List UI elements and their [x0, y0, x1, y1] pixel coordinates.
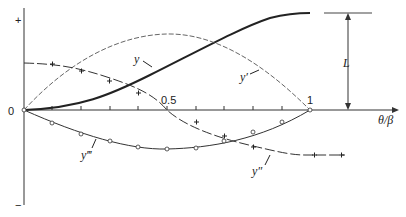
chart-svg: + − 0 0.5 1 θ/β L y y′ y‴ y″ [0, 0, 406, 217]
label-y-triple-prime: y‴ [80, 148, 92, 162]
origin-label: 0 [8, 105, 14, 117]
label-y: y [133, 52, 140, 66]
y-axis-minus: − [15, 199, 21, 211]
tick-label-half: 0.5 [161, 94, 176, 106]
leader-y2 [265, 155, 270, 165]
leader-y1 [250, 70, 259, 74]
y-axis-plus: + [15, 14, 21, 26]
tick-label-one: 1 [307, 94, 313, 106]
series-y-double-prime [24, 63, 345, 155]
arrow-up-icon [345, 13, 351, 20]
cam-motion-chart: + − 0 0.5 1 θ/β L y y′ y‴ y″ [0, 0, 406, 217]
circle-markers [22, 108, 312, 151]
label-y-prime: y′ [239, 70, 248, 84]
x-ticks [52, 106, 282, 110]
label-y-double-prime: y″ [251, 164, 263, 178]
x-axis-label: θ/β [378, 113, 393, 127]
series-y-triple-prime [24, 110, 310, 149]
arrow-down-icon [345, 103, 351, 110]
leader-y3 [92, 139, 96, 148]
leader-y [143, 61, 152, 67]
label-L: L [342, 56, 350, 70]
